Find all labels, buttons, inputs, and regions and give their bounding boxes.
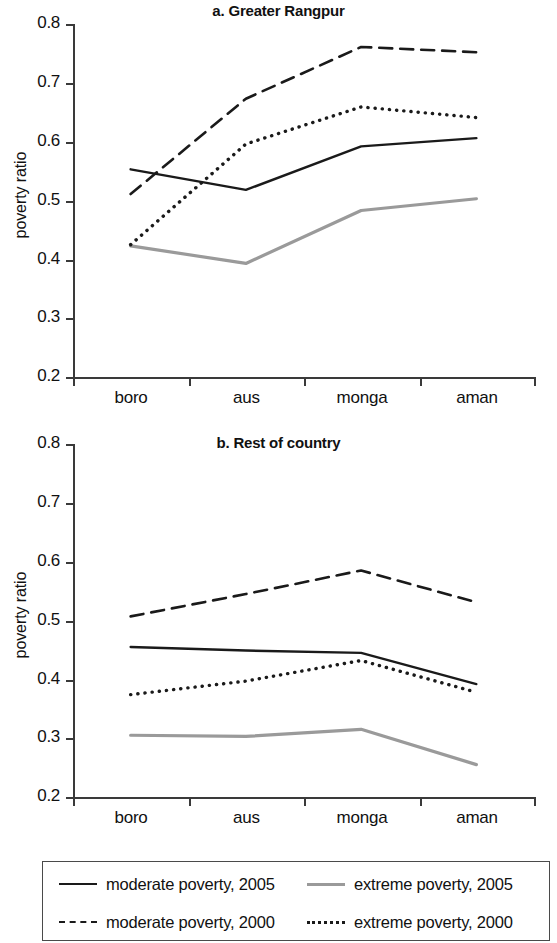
panel-b-xtick-1	[189, 797, 191, 806]
panel-b-xtick-label-boro: boro	[73, 808, 189, 828]
panel-b-xtick-label-aus: aus	[189, 808, 304, 828]
figure-poverty-ratio-by-season: a. Greater Rangpur poverty ratio 0.8 0.7…	[0, 0, 557, 943]
series-line-0	[131, 647, 477, 684]
panel-a-xtick-2	[304, 377, 306, 386]
series-line-0	[131, 138, 477, 190]
legend-item-extreme-2005[interactable]: extreme poverty, 2005	[307, 868, 513, 900]
panel-b-ytick-label-1: 0.7	[14, 492, 60, 512]
panel-a-ytick-label-3: 0.5	[14, 190, 60, 210]
panel-b-ytick-label-6: 0.2	[14, 786, 60, 806]
panel-a-ytick-label-5: 0.3	[14, 307, 60, 327]
panel-b-title: b. Rest of country	[0, 434, 557, 451]
panel-b-ytick-label-0: 0.8	[14, 433, 60, 453]
panel-a-ytick-2	[66, 142, 75, 144]
panel-a-series-layer	[0, 0, 557, 420]
panel-a-ytick-label-1: 0.7	[14, 72, 60, 92]
legend-label-extreme-2000: extreme poverty, 2000	[354, 913, 513, 932]
panel-a-ytick-label-4: 0.4	[14, 249, 60, 269]
series-line-2	[131, 729, 477, 764]
series-line-1	[131, 570, 477, 616]
panel-b-ytick-0	[66, 444, 75, 446]
series-line-3	[131, 661, 477, 695]
panel-b-ytick-2	[66, 562, 75, 564]
panel-b-xtick-2	[304, 797, 306, 806]
panel-a-ytick-3	[66, 201, 75, 203]
panel-a-xtick-label-aman: aman	[420, 388, 534, 408]
panel-a-ytick-1	[66, 83, 75, 85]
panel-a-xtick-label-boro: boro	[73, 388, 189, 408]
legend-label-moderate-2005: moderate poverty, 2005	[106, 875, 275, 894]
panel-a-xtick-4	[534, 377, 536, 386]
panel-a-xtick-3	[420, 377, 422, 386]
legend-row-2005: moderate poverty, 2005 extreme poverty, …	[43, 868, 549, 900]
panel-b-xtick-label-aman: aman	[420, 808, 534, 828]
panel-a-xtick-label-monga: monga	[304, 388, 420, 408]
panel-a-ytick-5	[66, 318, 75, 320]
panel-b-series-layer	[0, 420, 557, 840]
panel-b-ytick-label-5: 0.3	[14, 727, 60, 747]
panel-a-title: a. Greater Rangpur	[0, 2, 557, 19]
legend-item-moderate-2005[interactable]: moderate poverty, 2005	[59, 868, 275, 900]
panel-b-ytick-label-2: 0.6	[14, 551, 60, 571]
panel-b-ytick-label-4: 0.4	[14, 669, 60, 689]
dashed-black-line-icon	[59, 914, 97, 930]
solid-black-line-icon	[59, 876, 97, 892]
chart-panel-b: b. Rest of country poverty ratio 0.8 0.7…	[0, 420, 557, 840]
panel-a-xtick-1	[189, 377, 191, 386]
legend-row-2000: moderate poverty, 2000 extreme poverty, …	[43, 906, 549, 938]
panel-b-ytick-4	[66, 680, 75, 682]
legend-item-moderate-2000[interactable]: moderate poverty, 2000	[59, 906, 275, 938]
panel-b-ytick-1	[66, 503, 75, 505]
panel-b-xtick-label-monga: monga	[304, 808, 420, 828]
legend-label-moderate-2000: moderate poverty, 2000	[106, 913, 275, 932]
panel-b-xtick-3	[420, 797, 422, 806]
panel-a-xtick-0	[73, 377, 75, 386]
panel-a-ytick-label-0: 0.8	[14, 13, 60, 33]
panel-b-ytick-label-3: 0.5	[14, 610, 60, 630]
series-line-1	[131, 47, 477, 194]
panel-a-ytick-4	[66, 260, 75, 262]
panel-a-ytick-label-6: 0.2	[14, 366, 60, 386]
series-line-3	[131, 107, 477, 245]
dotted-black-line-icon	[307, 914, 345, 930]
legend-label-extreme-2005: extreme poverty, 2005	[354, 875, 513, 894]
panel-a-ytick-label-2: 0.6	[14, 131, 60, 151]
chart-panel-a: a. Greater Rangpur poverty ratio 0.8 0.7…	[0, 0, 557, 420]
panel-b-xtick-4	[534, 797, 536, 806]
legend-item-extreme-2000[interactable]: extreme poverty, 2000	[307, 906, 513, 938]
panel-b-xtick-0	[73, 797, 75, 806]
panel-b-ytick-5	[66, 738, 75, 740]
panel-a-ytick-0	[66, 24, 75, 26]
chart-legend: moderate poverty, 2005 extreme poverty, …	[42, 861, 550, 941]
panel-a-xtick-label-aus: aus	[189, 388, 304, 408]
solid-gray-line-icon	[307, 876, 345, 892]
panel-b-ytick-3	[66, 621, 75, 623]
series-line-2	[131, 199, 477, 264]
